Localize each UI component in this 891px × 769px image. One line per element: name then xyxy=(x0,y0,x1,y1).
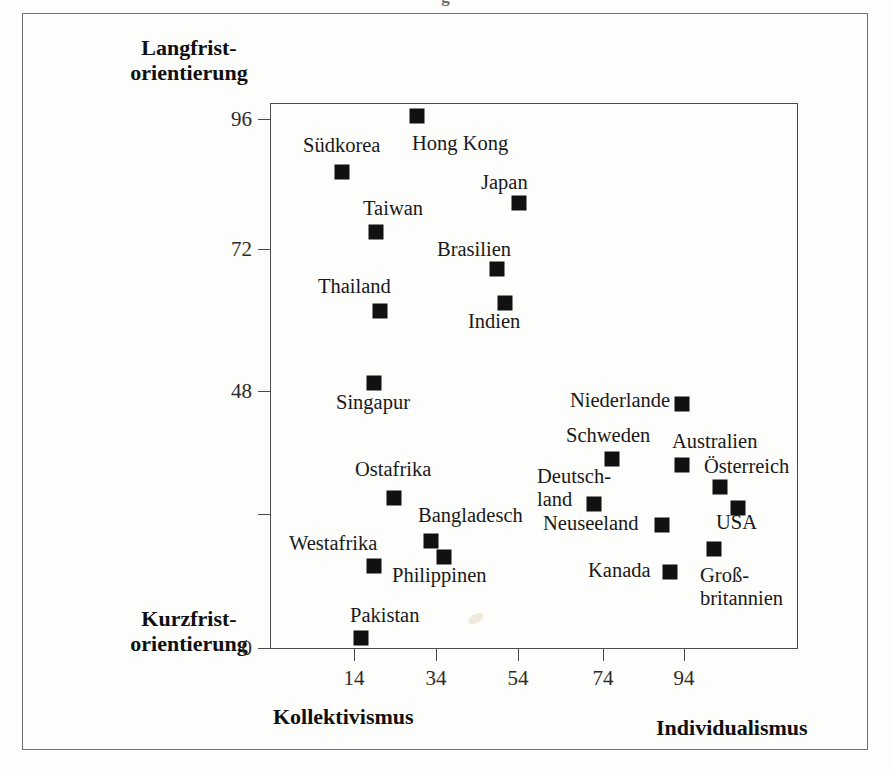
point-label-niederlande: Niederlande xyxy=(570,390,670,411)
y-axis-title-top-line1: Langfrist- xyxy=(99,36,279,61)
point-label-singapur: Singapur xyxy=(336,392,410,413)
point-label-grossbritannien-1: Groß- xyxy=(700,565,749,586)
x-tick-label-34: 34 xyxy=(426,666,447,691)
y-tick-96 xyxy=(258,119,271,120)
y-tick-label-96: 96 xyxy=(231,107,252,132)
point-label-pakistan: Pakistan xyxy=(350,605,419,626)
point-label-oesterreich: Österreich xyxy=(704,456,789,477)
point-label-deutschland-1: Deutsch- xyxy=(537,466,611,487)
point-label-usa: USA xyxy=(716,512,757,533)
point-label-suedkorea: Südkorea xyxy=(303,135,380,156)
x-axis-label-right: Individualismus xyxy=(656,715,808,741)
marker-oesterreich xyxy=(713,480,728,495)
marker-neuseeland xyxy=(655,518,670,533)
marker-thailand xyxy=(373,304,388,319)
marker-kanada xyxy=(663,565,678,580)
point-label-grossbritannien-2: britannien xyxy=(700,588,783,609)
marker-deutschland xyxy=(587,497,602,512)
x-tick-14 xyxy=(354,648,355,661)
marker-australien xyxy=(675,458,690,473)
point-label-indien: Indien xyxy=(468,311,520,332)
marker-suedkorea xyxy=(335,165,350,180)
x-axis-label-left: Kollektivismus xyxy=(273,704,414,730)
marker-bangladesch xyxy=(424,534,439,549)
x-tick-label-74: 74 xyxy=(593,666,614,691)
x-tick-34 xyxy=(436,648,437,661)
marker-hong-kong xyxy=(410,109,425,124)
marker-taiwan xyxy=(369,225,384,240)
point-label-japan: Japan xyxy=(481,172,528,193)
marker-ostafrika xyxy=(387,491,402,506)
point-label-westafrika: Westafrika xyxy=(289,533,377,554)
x-tick-label-94: 94 xyxy=(674,666,695,691)
y-axis-title-bottom-line1: Kurzfrist- xyxy=(99,607,279,632)
y-axis-title-bottom: Kurzfrist- orientierung xyxy=(99,607,279,656)
point-label-thailand: Thailand xyxy=(318,276,391,297)
y-axis-title-top: Langfrist- orientierung xyxy=(99,36,279,85)
point-label-ostafrika: Ostafrika xyxy=(355,459,431,480)
y-tick-label-72: 72 xyxy=(231,237,252,262)
y-tick-label-0: 0 xyxy=(242,636,253,661)
marker-brasilien xyxy=(490,262,505,277)
point-label-kanada: Kanada xyxy=(588,560,651,581)
y-tick-label-48: 48 xyxy=(231,379,252,404)
y-axis-title-bottom-line2: orientierung xyxy=(99,632,279,657)
marker-philippinen xyxy=(437,550,452,565)
marker-pakistan xyxy=(354,631,369,646)
marker-japan xyxy=(512,196,527,211)
figure-root: g Langfrist- orientierung Kurzfrist- ori… xyxy=(0,0,891,769)
point-label-hong-kong: Hong Kong xyxy=(412,133,508,154)
y-tick-48 xyxy=(258,391,271,392)
marker-singapur xyxy=(367,376,382,391)
point-label-australien: Australien xyxy=(672,431,757,452)
cropped-title-text: g xyxy=(441,0,450,2)
marker-grossbritannien xyxy=(707,542,722,557)
x-tick-94 xyxy=(684,648,685,661)
x-tick-74 xyxy=(603,648,604,661)
point-label-neuseeland: Neuseeland xyxy=(543,513,639,534)
point-label-schweden: Schweden xyxy=(566,425,650,446)
y-axis-title-top-line2: orientierung xyxy=(99,61,279,86)
y-tick-0 xyxy=(258,648,271,649)
point-label-bangladesch: Bangladesch xyxy=(418,505,523,526)
x-tick-54 xyxy=(518,648,519,661)
marker-indien xyxy=(498,296,513,311)
point-label-philippinen: Philippinen xyxy=(392,565,487,586)
point-label-deutschland-2: land xyxy=(537,489,572,510)
x-tick-label-14: 14 xyxy=(344,666,365,691)
marker-niederlande xyxy=(675,397,690,412)
cropped-title-sliver: g xyxy=(0,0,891,11)
x-tick-label-54: 54 xyxy=(508,666,529,691)
y-tick-24 xyxy=(258,514,271,515)
point-label-brasilien: Brasilien xyxy=(437,239,511,260)
marker-westafrika xyxy=(367,559,382,574)
point-label-taiwan: Taiwan xyxy=(363,198,423,219)
y-tick-72 xyxy=(258,249,271,250)
